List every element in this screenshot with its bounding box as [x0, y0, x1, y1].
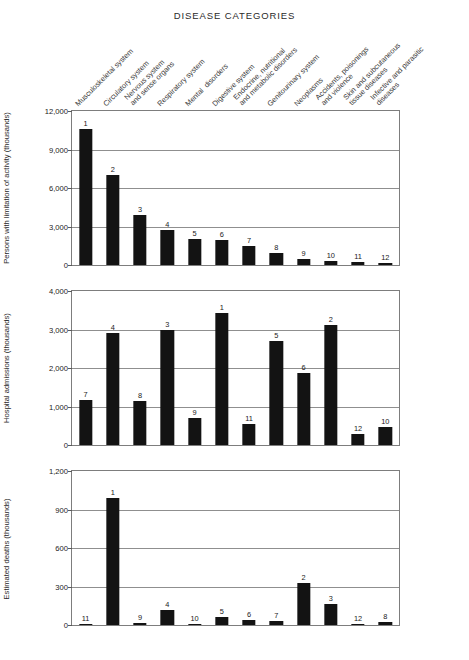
bar-group: 11 [236, 291, 263, 445]
bar [242, 620, 255, 625]
y-tick-label: 1,200 [49, 467, 72, 476]
bar-group: 4 [99, 291, 126, 445]
bar-rank-label: 6 [220, 230, 224, 239]
y-axis-title-0: Persons with limitation of activity (tho… [0, 104, 13, 272]
bar [242, 424, 255, 445]
bar-rank-label: 5 [274, 331, 278, 340]
bar-group: 10 [181, 471, 208, 625]
bar [379, 427, 392, 445]
bar-group: 5 [181, 111, 208, 265]
bar [79, 624, 92, 625]
bar-group: 4 [154, 471, 181, 625]
y-tick-label: 3,000 [49, 325, 72, 334]
bar [161, 610, 174, 625]
bar-group: 12 [345, 291, 372, 445]
page-title: DISEASE CATEGORIES [0, 10, 469, 21]
bar-group: 3 [317, 471, 344, 625]
plot-area-1: 01,0002,0003,0004,000 748391115621210 [71, 290, 400, 446]
bar [324, 604, 337, 625]
bars-0: 123456789101112 [72, 111, 399, 265]
bar [133, 401, 146, 445]
bar-group: 4 [154, 111, 181, 265]
bar-group: 2 [99, 111, 126, 265]
bar [297, 583, 310, 625]
bar-rank-label: 7 [84, 390, 88, 399]
bar-group: 6 [208, 111, 235, 265]
bar-rank-label: 6 [302, 363, 306, 372]
bar-rank-label: 8 [274, 243, 278, 252]
y-tick-label: 1,000 [49, 402, 72, 411]
bar-rank-label: 9 [193, 408, 197, 417]
bar-group: 7 [236, 111, 263, 265]
bar-group: 3 [127, 111, 154, 265]
bar-rank-label: 7 [274, 611, 278, 620]
bar [351, 434, 364, 445]
bar-rank-label: 8 [138, 391, 142, 400]
bar [106, 498, 119, 625]
y-tick-label: 2,000 [49, 364, 72, 373]
bar-rank-label: 5 [193, 229, 197, 238]
bar-rank-label: 12 [354, 614, 362, 623]
bar-group: 8 [127, 291, 154, 445]
bar-rank-label: 1 [111, 488, 115, 497]
bar-group: 8 [263, 111, 290, 265]
category-axis-labels: Musculoskeletal systemCirculatory system… [0, 28, 469, 108]
y-tick-label: 0 [64, 261, 72, 270]
bar-group: 1 [72, 111, 99, 265]
bar-rank-label: 5 [220, 607, 224, 616]
panel-limitation-of-activity: Persons with limitation of activity (tho… [0, 104, 469, 272]
bar-rank-label: 2 [111, 165, 115, 174]
bar [188, 239, 201, 265]
y-tick-label: 600 [55, 544, 72, 553]
bar [79, 400, 92, 445]
bar-rank-label: 10 [327, 251, 335, 260]
bar-group: 3 [154, 291, 181, 445]
bar [351, 262, 364, 265]
bar [215, 313, 228, 445]
bar-rank-label: 8 [383, 612, 387, 621]
bar-group: 11 [345, 111, 372, 265]
bar-rank-label: 1 [220, 303, 224, 312]
bar [324, 325, 337, 445]
y-tick-label: 300 [55, 582, 72, 591]
bar-group: 12 [372, 111, 399, 265]
bar-group: 1 [208, 291, 235, 445]
y-axis-title-2: Estimated deaths (thousands) [0, 464, 13, 634]
bar-group: 6 [290, 291, 317, 445]
bar-group: 11 [72, 471, 99, 625]
bar-group: 7 [263, 471, 290, 625]
bar-rank-label: 2 [302, 573, 306, 582]
bars-1: 748391115621210 [72, 291, 399, 445]
bar-rank-label: 2 [329, 315, 333, 324]
bar-rank-label: 9 [302, 249, 306, 258]
bar [188, 418, 201, 445]
bar [188, 624, 201, 625]
y-tick-label: 4,000 [49, 287, 72, 296]
bar [379, 622, 392, 625]
bar-group: 10 [372, 291, 399, 445]
bar [161, 330, 174, 446]
y-tick-label: 6,000 [49, 184, 72, 193]
plot-area-2: 03006009001,200 111941056723128 [71, 470, 400, 626]
plot-area-0: 03,0006,0009,00012,000 123456789101112 [71, 110, 400, 266]
bar-group: 2 [290, 471, 317, 625]
bar-rank-label: 1 [84, 119, 88, 128]
bar-rank-label: 3 [165, 320, 169, 329]
bar-rank-label: 6 [247, 610, 251, 619]
y-tick-label: 0 [64, 441, 72, 450]
bar-group: 9 [181, 291, 208, 445]
bar [351, 624, 364, 625]
bar [133, 215, 146, 265]
bar-rank-label: 7 [247, 236, 251, 245]
bar-rank-label: 11 [82, 614, 90, 623]
bar-rank-label: 3 [329, 594, 333, 603]
y-axis-title-1: Hospital admissions (thousands) [0, 284, 13, 452]
bar-rank-label: 12 [354, 424, 362, 433]
bar-group: 6 [236, 471, 263, 625]
figure: DISEASE CATEGORIES Musculoskeletal syste… [0, 0, 469, 660]
panel-estimated-deaths: Estimated deaths (thousands) 03006009001… [0, 464, 469, 634]
bar-group: 5 [263, 291, 290, 445]
bar [215, 617, 228, 625]
bar [242, 246, 255, 265]
bar-rank-label: 4 [165, 220, 169, 229]
